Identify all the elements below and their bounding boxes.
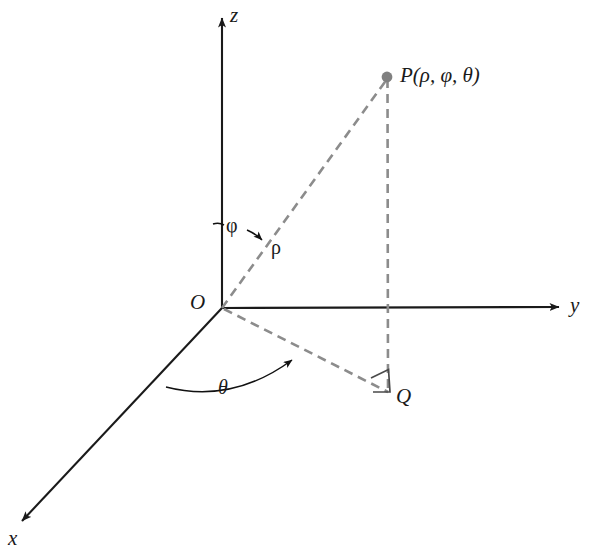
y-axis-line xyxy=(222,307,559,308)
z-axis-label: z xyxy=(230,5,238,26)
y-axis-label: y xyxy=(570,295,579,316)
theta-label: θ xyxy=(218,377,228,397)
oq-segment xyxy=(224,309,388,392)
point-p-label: P(ρ, φ, θ) xyxy=(400,65,480,86)
phi-label: φ xyxy=(226,215,238,235)
x-axis-label: x xyxy=(8,528,17,549)
rho-label: ρ xyxy=(271,237,281,257)
spherical-coordinates-figure: z y x O P(ρ, φ, θ) Q ρ φ θ xyxy=(0,0,590,549)
point-p-dot xyxy=(382,72,393,83)
origin-label: O xyxy=(190,292,205,313)
point-q-label: Q xyxy=(396,386,411,407)
pq-segment xyxy=(388,79,389,392)
phi-arc xyxy=(213,223,224,225)
rho-segment xyxy=(222,79,387,308)
phi-pointer-arrow xyxy=(247,230,262,240)
x-axis-line xyxy=(22,308,222,521)
diagram-canvas xyxy=(0,0,590,549)
theta-arc xyxy=(166,360,292,392)
